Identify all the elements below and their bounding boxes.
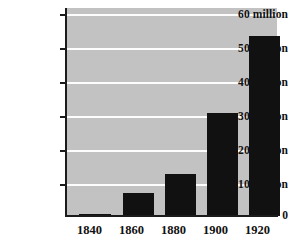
- y-axis-label-60: 60 million: [226, 9, 288, 21]
- y-axis-label-0: 0: [228, 210, 288, 222]
- x-axis-label-1880: 1880: [150, 224, 197, 237]
- y-axis-label-20: 20 million: [226, 145, 288, 157]
- y-tick-10: [60, 184, 66, 186]
- x-axis-label-1900: 1900: [192, 224, 239, 237]
- x-axis-label-1860: 1860: [108, 224, 155, 237]
- y-tick-60: [60, 14, 66, 16]
- x-axis-label-1840: 1840: [66, 224, 113, 237]
- y-axis-label-50: 50 million: [226, 43, 288, 55]
- y-axis-label-40: 40 million: [226, 77, 288, 89]
- y-tick-30: [60, 116, 66, 118]
- bar-chart: 60 million 50 million 40 million 30 mill…: [0, 0, 288, 251]
- y-axis-label-30: 30 million: [226, 111, 288, 123]
- y-tick-50: [60, 48, 66, 50]
- bar-1900: [207, 113, 238, 216]
- y-tick-20: [60, 150, 66, 152]
- bar-1860: [123, 193, 154, 216]
- y-axis-label-10: 10 million: [226, 179, 288, 191]
- bar-1880: [165, 174, 196, 216]
- y-tick-40: [60, 82, 66, 84]
- x-axis-label-1920: 1920: [234, 224, 281, 237]
